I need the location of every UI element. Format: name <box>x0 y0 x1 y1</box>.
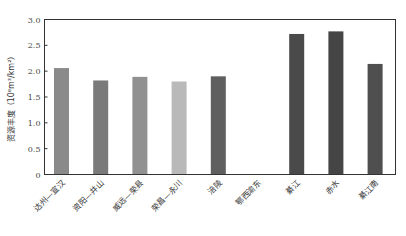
x-category-label: 涪陵 <box>205 178 223 196</box>
bar-9 <box>368 64 383 175</box>
bar-8 <box>328 31 343 174</box>
y-tick-label: 2.0 <box>28 67 41 76</box>
x-category-label: 綦江 <box>284 178 302 196</box>
x-category-label: 荣昌—永川 <box>149 178 184 213</box>
x-category-label: 达州—宣汉 <box>32 178 67 213</box>
bar-3 <box>132 77 147 175</box>
y-tick-label: 1.0 <box>28 119 41 128</box>
bars-group <box>54 31 383 174</box>
bar-5 <box>211 76 226 174</box>
x-category-label: 资阳—井山 <box>71 178 106 213</box>
y-axis-title: 资源丰度（10⁸m³/km²） <box>6 52 16 143</box>
y-tick-label: 0 <box>35 171 40 180</box>
x-category-label: 鄂西渝东 <box>233 178 263 208</box>
bar-chart: 00.51.01.52.02.53.0 达州—宣汉资阳—井山威远—荣县荣昌—永川… <box>0 0 406 236</box>
bar-4 <box>172 82 187 175</box>
bar-1 <box>54 68 69 174</box>
y-tick-label: 3.0 <box>28 16 41 25</box>
bar-7 <box>289 34 304 175</box>
y-tick-label: 0.5 <box>28 145 41 154</box>
y-tick-label: 2.5 <box>28 41 41 50</box>
y-tick-label: 1.5 <box>28 93 41 102</box>
x-category-label: 威远—荣县 <box>110 178 145 213</box>
bar-2 <box>93 80 108 174</box>
x-axis: 达州—宣汉资阳—井山威远—荣县荣昌—永川涪陵鄂西渝东綦江赤水綦江南 <box>32 178 381 213</box>
x-category-label: 赤水 <box>323 178 341 196</box>
x-category-label: 綦江南 <box>356 178 380 202</box>
